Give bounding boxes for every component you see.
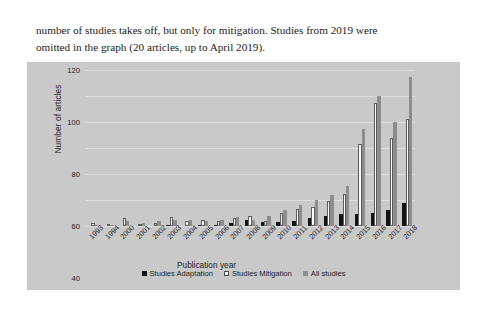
- page-root: number of studies takes off, but only fo…: [0, 0, 486, 319]
- legend-swatch-all: [303, 271, 308, 276]
- bar-group: [101, 70, 117, 226]
- legend-label: Studies Adaptation: [150, 269, 213, 278]
- bar-group: [321, 70, 337, 226]
- bar-group: [289, 70, 305, 226]
- x-axis-tick-labels: 1993199420002001200220032004200520062007…: [85, 228, 415, 266]
- x-tick: 2018: [399, 228, 415, 266]
- bar-group: [274, 70, 290, 226]
- bar-group: [226, 70, 242, 226]
- y-tick-label: 120: [67, 66, 80, 75]
- bar-all: [362, 129, 365, 227]
- chart-inner: Number of articles 020406080100120 19931…: [27, 62, 460, 290]
- x-tick: 1993: [85, 228, 101, 266]
- x-tick: 2013: [321, 228, 337, 266]
- x-tick: 2017: [384, 228, 400, 266]
- bar-all: [330, 195, 333, 226]
- bar-all: [377, 96, 380, 226]
- legend-item: Studies Mitigation: [224, 269, 292, 278]
- chart-figure: Number of articles 020406080100120 19931…: [27, 62, 460, 290]
- bar-group: [352, 70, 368, 226]
- x-tick: 2014: [337, 228, 353, 266]
- bar-group: [305, 70, 321, 226]
- x-tick: 2015: [352, 228, 368, 266]
- bar-group: [195, 70, 211, 226]
- bar-series-container: [85, 70, 415, 226]
- bar-all: [315, 200, 318, 226]
- bar-group: [258, 70, 274, 226]
- bar-group: [399, 70, 415, 226]
- bar-group: [116, 70, 132, 226]
- bar-all: [393, 122, 396, 226]
- chart-legend: Studies AdaptationStudies MitigationAll …: [27, 269, 460, 278]
- paragraph-line-1: number of studies takes off, but only fo…: [36, 22, 450, 39]
- y-tick-label: 60: [72, 222, 80, 231]
- y-tick-label: 80: [72, 170, 80, 179]
- legend-swatch-mitig: [224, 271, 229, 276]
- x-tick: 2016: [368, 228, 384, 266]
- plot-area: 020406080100120: [85, 70, 415, 226]
- legend-swatch-adapt: [142, 271, 147, 276]
- bar-group: [368, 70, 384, 226]
- x-tick: 2010: [274, 228, 290, 266]
- x-tick: 2000: [116, 228, 132, 266]
- bar-group: [242, 70, 258, 226]
- paragraph-line-2: omitted in the graph (20 articles, up to…: [36, 39, 450, 56]
- x-tick: 2011: [289, 228, 305, 266]
- bar-group: [148, 70, 164, 226]
- y-tick-label: 100: [67, 118, 80, 127]
- y-axis-title: Number of articles: [53, 64, 63, 174]
- legend-item: Studies Adaptation: [142, 269, 213, 278]
- bar-group: [211, 70, 227, 226]
- legend-label: Studies Mitigation: [232, 269, 292, 278]
- bar-group: [164, 70, 180, 226]
- legend-item: All studies: [303, 269, 346, 278]
- body-paragraph: number of studies takes off, but only fo…: [36, 22, 450, 55]
- x-tick: 1994: [101, 228, 117, 266]
- x-tick: 2001: [132, 228, 148, 266]
- x-tick: 2002: [148, 228, 164, 266]
- bar-group: [85, 70, 101, 226]
- bar-all: [346, 186, 349, 226]
- x-tick: 2012: [305, 228, 321, 266]
- bar-group: [179, 70, 195, 226]
- bar-all: [409, 77, 412, 227]
- x-tick: 2009: [258, 228, 274, 266]
- bar-group: [337, 70, 353, 226]
- bar-group: [384, 70, 400, 226]
- x-tick: 2008: [242, 228, 258, 266]
- bar-group: [132, 70, 148, 226]
- legend-label: All studies: [311, 269, 346, 278]
